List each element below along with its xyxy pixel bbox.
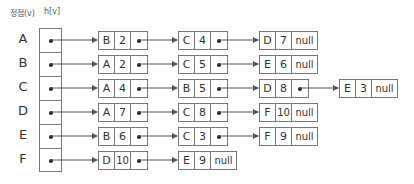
link-arrows	[0, 0, 414, 184]
